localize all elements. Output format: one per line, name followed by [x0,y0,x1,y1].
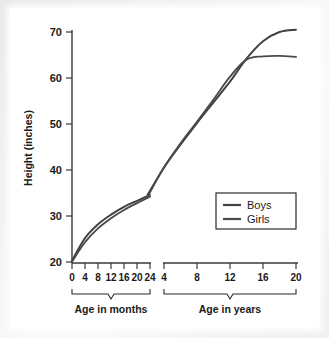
x-tick-label-months-20: 20 [131,272,143,283]
series-line-girls [72,56,296,262]
y-tick-label-30: 30 [50,210,62,222]
y-tick-label-70: 70 [50,26,62,38]
bracket-label-months: Age in months [75,303,148,315]
height-vs-age-line-chart: 70 60 50 40 30 20 Height (inches) [10,8,319,328]
y-tick-label-20: 20 [50,256,62,268]
x-tick-label-months-0: 0 [69,272,75,283]
x-tick-label-years-4: 4 [161,272,167,283]
legend-label-boys: Boys [247,199,272,211]
y-tick-label-40: 40 [50,164,62,176]
x-tick-label-months-4: 4 [82,272,88,283]
x-tick-label-years-8: 8 [194,272,200,283]
chart-canvas: 70 60 50 40 30 20 Height (inches) [10,8,319,328]
bracket-years [164,289,296,299]
y-tick-marks [66,32,72,262]
legend-label-girls: Girls [247,213,270,225]
x-tick-marks-years [164,263,296,269]
y-tick-label-50: 50 [50,118,62,130]
x-tick-label-months-8: 8 [95,272,101,283]
y-axis-title: Height (inches) [22,110,34,186]
legend[interactable]: Boys Girls [216,193,296,229]
chart-page: 70 60 50 40 30 20 Height (inches) [0,0,329,338]
bracket-months [72,289,150,299]
x-tick-label-years-20: 20 [290,272,302,283]
x-tick-label-years-12: 12 [224,272,236,283]
x-tick-label-years-16: 16 [257,272,269,283]
bracket-label-years: Age in years [199,303,262,315]
x-tick-label-months-24: 24 [144,272,156,283]
x-tick-label-months-12: 12 [105,272,117,283]
y-tick-label-60: 60 [50,72,62,84]
x-tick-marks-months [72,263,150,269]
x-tick-label-months-16: 16 [118,272,130,283]
